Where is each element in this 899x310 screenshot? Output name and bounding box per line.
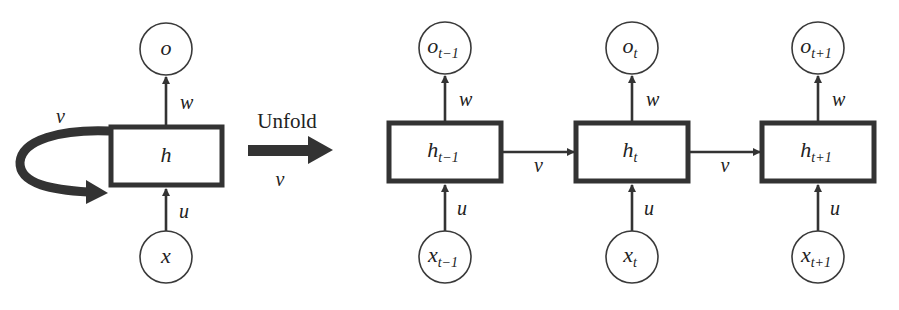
hidden-node: ht+1: [762, 123, 874, 181]
unfold-arrow-group: Unfold v: [248, 109, 333, 190]
input-weight-label: u: [644, 197, 654, 219]
input-label-base: x: [800, 242, 811, 267]
input-node: xt: [606, 231, 658, 283]
folded-hidden-label: h: [161, 142, 172, 167]
recurrent-loop-arrow: [20, 131, 110, 204]
hidden-label-base: h: [623, 137, 634, 162]
hidden-node: ht: [576, 123, 688, 181]
rnn-unfold-diagram: o w h u x v Unfold v ot: [0, 0, 899, 310]
hidden-label-base: h: [800, 137, 811, 162]
output-weight-label: w: [459, 88, 473, 110]
folded-input-node: x: [140, 231, 192, 283]
unfold-weight-label: v: [276, 168, 285, 190]
input-node: xt+1: [792, 231, 844, 283]
unfold-label: Unfold: [257, 109, 317, 133]
folded-output-label: o: [161, 35, 172, 60]
hidden-label-subscript: t+1: [811, 150, 831, 165]
time-step: ot+1wht+1uxt+1: [762, 22, 874, 283]
output-label-subscript: t+1: [811, 46, 831, 61]
input-weight-label: u: [457, 197, 467, 219]
output-node: ot+1: [792, 22, 844, 74]
output-weight-label: w: [646, 88, 660, 110]
input-label-subscript: t−1: [438, 255, 458, 270]
output-label-base: o: [427, 33, 438, 58]
folded-output-node: o: [140, 23, 192, 75]
folded-output-weight-label: w: [180, 91, 194, 113]
input-label-base: x: [427, 242, 438, 267]
input-node: xt−1: [419, 231, 471, 283]
recurrent-weight-label: v: [721, 154, 730, 176]
recurrent-weight-label: v: [534, 154, 543, 176]
folded-hidden-node: h: [111, 127, 222, 185]
output-label-base: o: [800, 33, 811, 58]
hidden-label-base: h: [427, 137, 438, 162]
recurrent-weight-label: v: [56, 105, 65, 127]
output-node: ot: [606, 22, 658, 74]
unfold-arrow: [248, 136, 333, 164]
output-node: ot−1: [419, 22, 471, 74]
output-label-base: o: [623, 33, 634, 58]
folded-rnn: o w h u x v: [20, 23, 222, 283]
time-step: ot−1wht−1uxt−1v: [389, 22, 574, 283]
input-label-base: x: [622, 242, 633, 267]
input-weight-label: u: [830, 197, 840, 219]
time-step: otwhtuxtv: [576, 22, 760, 283]
output-label-subscript: t−1: [438, 46, 458, 61]
hidden-label-subscript: t−1: [438, 150, 458, 165]
folded-input-label: x: [160, 243, 171, 268]
hidden-node: ht−1: [389, 123, 501, 181]
folded-input-weight-label: u: [179, 200, 189, 222]
input-label-subscript: t+1: [811, 255, 831, 270]
output-weight-label: w: [832, 88, 846, 110]
unfolded-steps: ot−1wht−1uxt−1votwhtuxtvot+1wht+1uxt+1: [389, 22, 874, 283]
